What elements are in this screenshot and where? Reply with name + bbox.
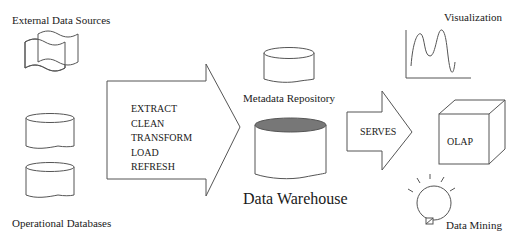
- olap-label: OLAP: [447, 137, 473, 147]
- visualization-label: Visualization: [444, 12, 502, 23]
- data-mining-label: Data Mining: [446, 220, 502, 231]
- serves-label: SERVES: [360, 127, 396, 137]
- metadata-repository-label: Metadata Repository: [243, 93, 335, 104]
- etl-steps-list: EXTRACT CLEAN TRANSFORM LOAD REFRESH: [131, 102, 192, 175]
- operational-database-icon-1: [26, 114, 74, 149]
- metadata-repository-icon: [264, 48, 314, 83]
- etl-step-clean: CLEAN: [131, 117, 192, 132]
- olap-cube-icon: [439, 100, 505, 164]
- data-warehouse-icon: [255, 118, 326, 179]
- etl-step-load: LOAD: [131, 146, 192, 161]
- operational-databases-label: Operational Databases: [12, 218, 111, 229]
- operational-database-icon-2: [26, 163, 74, 198]
- etl-step-transform: TRANSFORM: [131, 131, 192, 146]
- visualization-chart-icon: [406, 30, 471, 78]
- etl-step-extract: EXTRACT: [131, 102, 192, 117]
- data-warehouse-label: Data Warehouse: [243, 191, 348, 207]
- etl-step-refresh: REFRESH: [131, 160, 192, 175]
- data-mining-bulb-icon: [408, 174, 455, 224]
- external-data-sources-label: External Data Sources: [12, 15, 110, 26]
- external-data-sources-icon: [25, 31, 78, 71]
